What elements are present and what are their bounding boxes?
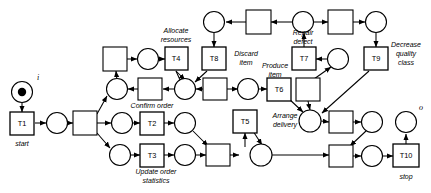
place-output[interactable] — [396, 112, 417, 133]
caption-item-produce: item — [268, 71, 281, 78]
caption-arrange: Arrange — [272, 112, 298, 120]
caption-decrease: Decrease — [391, 41, 421, 48]
caption-repair: Repair — [293, 29, 314, 37]
place[interactable] — [47, 113, 68, 134]
petri-net-canvas: T1 T2 T3 T4 T5 T6 T7 T8 T9 T10 start Con… — [0, 0, 431, 193]
arc — [97, 133, 110, 148]
caption-update-order: Update order — [136, 168, 178, 176]
silent-transition[interactable] — [329, 111, 353, 133]
place[interactable] — [107, 79, 128, 100]
arc — [97, 96, 107, 114]
place[interactable] — [362, 146, 383, 167]
silent-transition[interactable] — [73, 111, 97, 135]
silent-transition[interactable] — [329, 145, 353, 167]
silent-transition[interactable] — [246, 10, 271, 34]
silent-transition[interactable] — [138, 78, 162, 100]
input-label: i — [37, 73, 39, 82]
petri-net-diagram: T1 T2 T3 T4 T5 T6 T7 T8 T9 T10 start Con… — [0, 0, 431, 193]
place[interactable] — [175, 113, 196, 134]
place[interactable] — [250, 144, 272, 166]
place[interactable] — [110, 145, 131, 166]
silent-transition[interactable] — [296, 78, 320, 101]
transition-label-T2: T2 — [148, 119, 157, 128]
transition-label-T5: T5 — [241, 117, 250, 126]
transition-label-T10: T10 — [400, 151, 413, 160]
token — [18, 88, 26, 96]
place[interactable] — [328, 49, 349, 70]
silent-transition[interactable] — [103, 47, 127, 71]
arc — [322, 71, 369, 113]
arc — [321, 121, 329, 122]
transition-label-T1: T1 — [18, 119, 27, 128]
caption-statistics: statistics — [143, 177, 170, 184]
transition-label-T8: T8 — [210, 54, 219, 63]
place[interactable] — [175, 145, 196, 166]
transition-label-T7: T7 — [300, 54, 309, 63]
caption-class: class — [398, 59, 414, 66]
silent-transition[interactable] — [203, 78, 227, 100]
place[interactable] — [175, 79, 196, 100]
caption-resources: resources — [161, 36, 192, 43]
place[interactable] — [112, 113, 133, 134]
io-label-layer: i o — [37, 73, 423, 112]
caption-item-discard: item — [239, 59, 252, 66]
caption-start: start — [15, 140, 30, 147]
place[interactable] — [299, 110, 321, 132]
output-label: o — [419, 103, 423, 112]
place[interactable] — [238, 79, 259, 100]
caption-confirm-order: Confirm order — [131, 102, 174, 109]
place[interactable] — [362, 112, 383, 133]
place[interactable] — [204, 12, 225, 33]
silent-transition[interactable] — [206, 144, 230, 166]
transition-label-T4: T4 — [172, 54, 181, 63]
arc — [308, 101, 310, 110]
caption-defect: defect — [293, 38, 313, 45]
caption-quality: quality — [396, 50, 417, 58]
silent-transition[interactable] — [328, 10, 353, 34]
transition-label-T9: T9 — [372, 54, 381, 63]
transition-label-T6: T6 — [275, 85, 284, 94]
place[interactable] — [138, 49, 159, 70]
caption-discard: Discard — [234, 50, 259, 57]
caption-stop: stop — [399, 173, 412, 181]
caption-delivery: delivery — [273, 121, 298, 129]
transition-label-T3: T3 — [148, 151, 157, 160]
caption-produce: Produce — [262, 62, 288, 69]
caption-allocate: Allocate — [163, 27, 189, 34]
place[interactable] — [366, 12, 387, 33]
